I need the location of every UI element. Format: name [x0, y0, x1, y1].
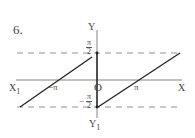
tick-neg-pi-over-2: π 2: [86, 93, 92, 110]
frac-den: 2: [87, 102, 91, 110]
tick-neg-pi: −π: [48, 83, 58, 92]
bottom-point: [96, 106, 99, 109]
y-neg-sub: 1: [96, 123, 100, 132]
top-point: [96, 52, 99, 55]
y-neg-axis-label: Y1: [89, 119, 100, 132]
tick-pi: π: [134, 83, 139, 92]
x-neg-axis-label: X1: [9, 83, 20, 96]
tick-pi-over-2: π 2: [86, 39, 92, 56]
frac-den: 2: [87, 48, 91, 56]
problem-number: 6.: [13, 23, 23, 36]
x-neg-sub: 1: [16, 87, 20, 96]
graph-svg: [0, 0, 195, 138]
graph-figure: 6. Y X X1 Y1 O −π π π 2 − π 2: [0, 0, 195, 138]
tick-neg-sign: −: [79, 97, 84, 106]
x-axis-label: X: [178, 83, 185, 93]
y-axis-label: Y: [88, 22, 95, 32]
origin-label: O: [94, 82, 102, 93]
